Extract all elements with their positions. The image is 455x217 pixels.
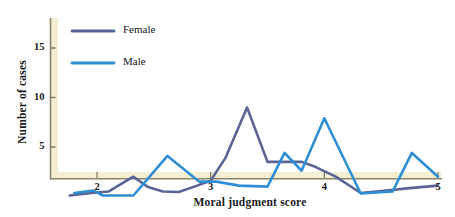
series-line-female bbox=[70, 107, 438, 195]
data-series-group bbox=[70, 107, 438, 195]
x-tick-label: 4 bbox=[316, 181, 332, 192]
y-axis-label: Number of cases bbox=[16, 32, 28, 172]
axis-shadow-bands bbox=[51, 18, 441, 179]
legend-label-male: Male bbox=[123, 55, 146, 67]
chart-plot-area bbox=[0, 0, 455, 217]
x-tick-label: 5 bbox=[430, 181, 446, 192]
y-tick-label: 10 bbox=[25, 91, 45, 102]
x-axis-label: Moral judgment score bbox=[130, 196, 370, 208]
x-tick-label: 2 bbox=[89, 181, 105, 192]
x-tick-label: 3 bbox=[203, 181, 219, 192]
axis-spines bbox=[50, 18, 442, 180]
y-tick-label: 15 bbox=[25, 41, 45, 52]
chart-figure: Number of cases Moral judgment score 510… bbox=[0, 0, 455, 217]
legend-label-female: Female bbox=[123, 23, 155, 35]
y-tick-label: 5 bbox=[25, 140, 45, 151]
legend-swatches bbox=[72, 31, 114, 63]
